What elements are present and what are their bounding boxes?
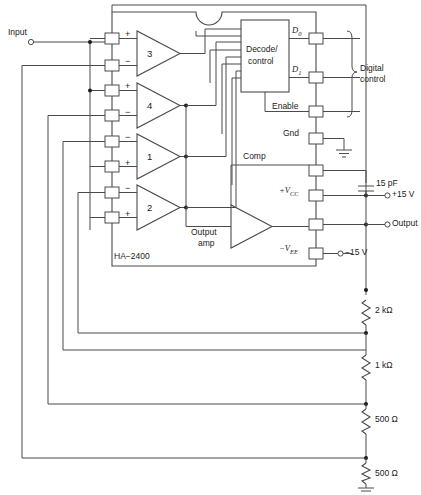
amplifier-3: [137, 31, 180, 76]
output-amp-label-line2: amp: [198, 239, 215, 249]
amp1-number: 1: [147, 151, 152, 162]
resistor-500-lower-label: 500 Ω: [375, 469, 398, 479]
positive-supply-label: +15 V: [392, 190, 414, 200]
amp2-minus-sign: −: [125, 183, 130, 193]
amp3-minus-sign: −: [125, 56, 130, 66]
resistor-1k: [362, 333, 370, 406]
negative-supply-label: −15 V: [345, 248, 367, 258]
resistor-500-upper: [362, 404, 370, 460]
vcc-net: [323, 193, 390, 198]
pin-d0-label: D0: [292, 26, 301, 37]
resistor-500-lower: [358, 458, 374, 491]
pin-vee-label: −VEE: [279, 244, 298, 255]
pin-gnd-label: Gnd: [283, 129, 299, 139]
decode-control-lines: [196, 31, 241, 185]
amp1-minus-sign: −: [125, 132, 130, 142]
amp3-number: 3: [147, 48, 152, 59]
input-net: [28, 39, 105, 231]
feedback-top-path: [112, 5, 366, 12]
output-amp-label-line1: Output: [191, 228, 217, 238]
resistor-500-upper-label: 500 Ω: [375, 415, 398, 425]
digital-control-label-line1: Digital: [360, 64, 384, 74]
digital-control-brace: [347, 31, 357, 117]
resistor-2k-label: 2 kΩ: [375, 306, 393, 316]
resistor-2k: [362, 300, 370, 335]
decode-control-label-line2: control: [248, 57, 274, 67]
pin-enable-label: Enable: [272, 102, 298, 112]
amplifier-4: [137, 83, 180, 128]
pin-comp-label: Comp: [243, 152, 266, 162]
amplifier-1: [137, 134, 180, 179]
amp2-number: 2: [147, 202, 152, 213]
figure-canvas: Input + − 3 + − 4 − + 1 − + 2 Decode/ co…: [0, 0, 421, 495]
output-amp: [231, 205, 272, 248]
input-label: Input: [8, 28, 27, 38]
amp2-plus-sign: +: [125, 209, 130, 219]
amp4-minus-sign: −: [125, 107, 130, 117]
pin-d1-label: D1: [292, 65, 301, 76]
feedback-path-4: [78, 193, 366, 334]
feedback-path-2: [48, 116, 366, 405]
output-label: Output: [392, 219, 418, 229]
amp1-plus-sign: +: [125, 158, 130, 168]
capacitor-value-label: 15 pF: [376, 179, 398, 189]
amp4-plus-sign: +: [125, 81, 130, 91]
resistor-1k-label: 1 kΩ: [375, 361, 393, 371]
digital-control-label-line2: control: [360, 75, 386, 85]
amplifier-2: [137, 185, 180, 230]
device-label: HA−2400: [114, 252, 150, 262]
pin-vcc-label: +VCC: [279, 186, 299, 197]
amp4-number: 4: [147, 100, 152, 111]
amp3-plus-sign: +: [125, 29, 130, 39]
feedback-path-1: [22, 66, 366, 459]
gnd-net: [323, 139, 352, 158]
comp-net: [231, 165, 374, 205]
decode-control-label-line1: Decode/: [246, 45, 278, 55]
